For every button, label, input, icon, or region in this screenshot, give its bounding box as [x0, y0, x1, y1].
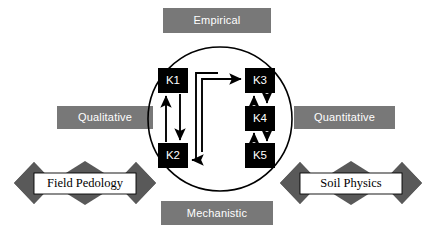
node-k2[interactable]: K2 [158, 143, 188, 168]
node-k1[interactable]: K1 [158, 68, 188, 93]
edge-k5-to-k2 [192, 73, 218, 160]
edge-k2-to-k3 [202, 79, 241, 152]
ribbon-soil-physics[interactable]: Soil Physics [280, 160, 422, 206]
ribbon-field-pedology[interactable]: Field Pedology [14, 160, 156, 206]
diagram-canvas: Empirical Mechanistic Qualitative Quanti… [0, 0, 434, 235]
ribbon-field-pedology-shape [14, 160, 156, 206]
ribbon-soil-physics-shape [280, 160, 422, 206]
node-k4[interactable]: K4 [245, 106, 275, 131]
node-k5[interactable]: K5 [245, 143, 275, 168]
node-k3[interactable]: K3 [245, 68, 275, 93]
